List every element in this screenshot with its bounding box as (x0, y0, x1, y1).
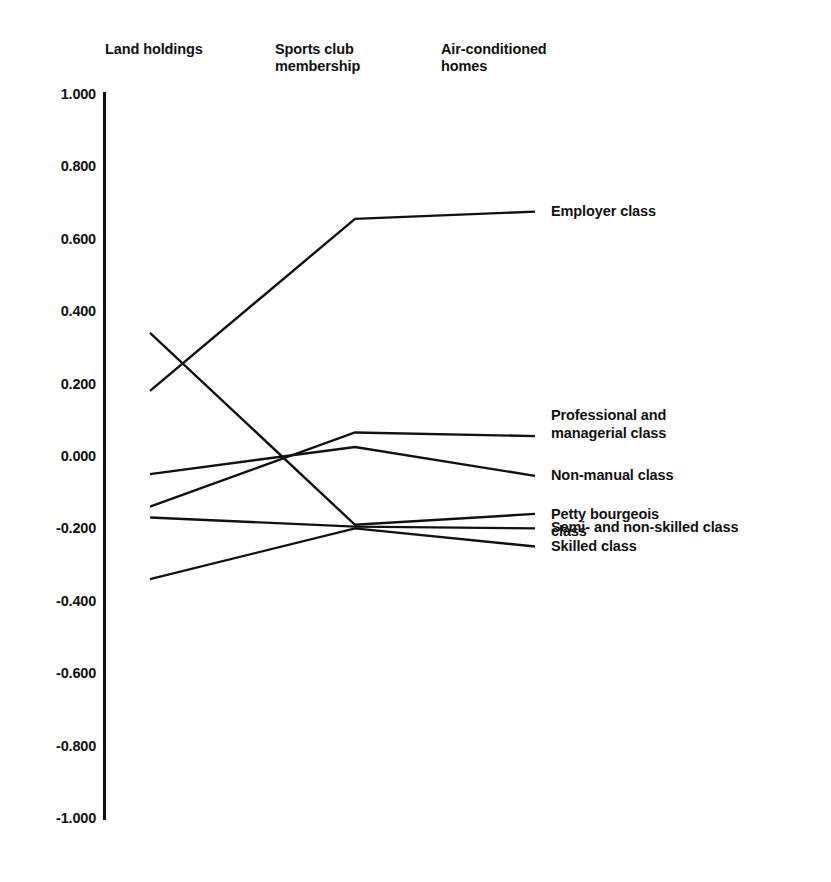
y-axis-tick-label: -0.200 (56, 520, 96, 536)
series-label-semi-and-non-skilled-class: Semi- and non-skilled class (551, 520, 738, 538)
y-axis-tick-label: 0.600 (61, 231, 96, 247)
series-line (150, 333, 535, 525)
y-axis-line (103, 92, 106, 820)
series-line (150, 212, 535, 391)
y-axis-tick-label: -0.800 (56, 738, 96, 754)
y-axis-tick-label: -0.400 (56, 593, 96, 609)
column-header-air-conditioned-homes: Air-conditioned homes (441, 41, 547, 75)
series-label-professional-and-managerial-class: Professional and managerial class (551, 407, 666, 442)
series-line (150, 432, 535, 506)
series-line (150, 528, 535, 579)
y-axis-tick-label: 0.400 (61, 303, 96, 319)
series-line (150, 447, 535, 476)
series-label-skilled-class: Skilled class (551, 538, 637, 556)
plot-area (0, 0, 831, 882)
column-header-sports-club-membership: Sports club membership (275, 41, 360, 75)
y-axis-tick-label: 0.800 (61, 158, 96, 174)
y-axis-tick-label: -0.600 (56, 665, 96, 681)
series-line (150, 518, 535, 529)
column-header-land-holdings: Land holdings (105, 41, 203, 58)
y-axis-tick-label: -1.000 (56, 810, 96, 826)
y-axis-tick-label: 0.200 (61, 376, 96, 392)
series-label-employer-class: Employer class (551, 203, 656, 221)
line-chart: Land holdings Sports club membership Air… (0, 0, 831, 882)
series-label-non-manual-class: Non-manual class (551, 467, 674, 485)
y-axis-tick-label: 1.000 (61, 86, 96, 102)
y-axis-tick-label: 0.000 (61, 448, 96, 464)
